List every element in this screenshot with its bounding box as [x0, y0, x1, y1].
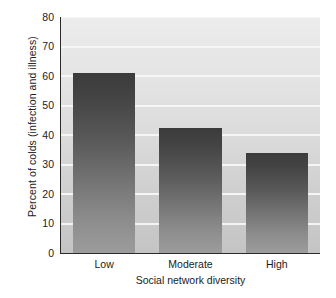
x-axis-tick-label: High — [234, 258, 320, 271]
x-axis-tick-label: Moderate — [147, 258, 233, 271]
y-axis-tick-label: 0 — [30, 248, 54, 259]
y-axis-tick-label: 40 — [30, 130, 54, 141]
gridline — [61, 17, 320, 18]
bar-low — [73, 73, 135, 253]
bar-high — [246, 153, 308, 253]
y-axis-tick-label: 20 — [30, 189, 54, 200]
y-axis-tick-label: 50 — [30, 100, 54, 111]
y-axis-tick-label: 80 — [30, 12, 54, 23]
y-axis-tick-label: 10 — [30, 218, 54, 229]
x-axis-tick-label: Low — [61, 258, 147, 271]
y-axis-tick-labels: 01020304050607080 — [30, 0, 54, 298]
x-axis-line — [61, 253, 320, 254]
y-axis-tick-label: 60 — [30, 71, 54, 82]
x-axis-title: Social network diversity — [61, 274, 320, 287]
y-axis-tick-label: 70 — [30, 41, 54, 52]
y-axis-tick-label: 30 — [30, 159, 54, 170]
bar-moderate — [159, 128, 221, 253]
x-axis-tick-labels: LowModerateHigh — [61, 258, 320, 272]
bar-chart-figure: Percent of colds (infection and illness)… — [0, 0, 336, 298]
gridline — [61, 46, 320, 48]
plot-area — [61, 17, 320, 253]
